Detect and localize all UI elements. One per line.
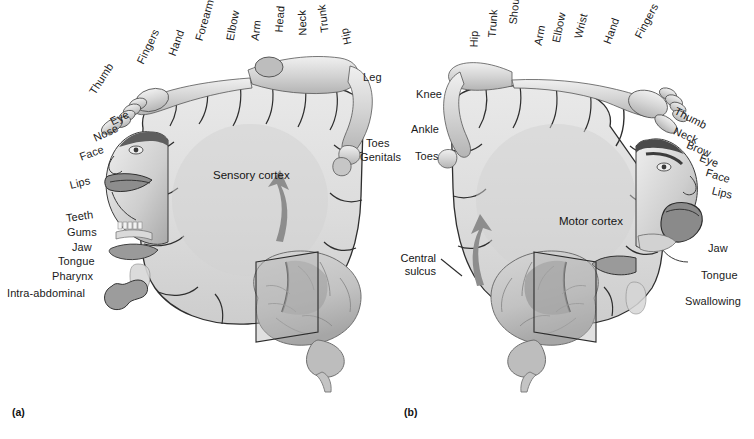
label-jaw-a: Jaw: [72, 242, 92, 253]
sensory-small-brain: [254, 251, 361, 392]
label-pharynx-a: Pharynx: [52, 271, 93, 282]
label-gums-a: Gums: [67, 227, 97, 238]
label-toes-a: Toes: [366, 138, 390, 149]
label-genitals-a: Genitals: [360, 152, 401, 163]
central-sulcus-leader: [441, 259, 462, 276]
label-neck-a: Neck: [297, 10, 309, 36]
central-sulcus-line2: sulcus: [376, 265, 436, 278]
label-tongue-b: Tongue: [701, 270, 738, 281]
central-sulcus-callout: Central sulcus: [376, 252, 436, 277]
label-tongue-a: Tongue: [58, 256, 95, 267]
sensory-cortex-label: Sensory cortex: [213, 169, 290, 181]
central-sulcus-line1: Central: [376, 252, 436, 265]
motor-small-brain: [441, 251, 598, 392]
label-ankle-b: Ankle: [411, 124, 439, 135]
panel-letter-a: (a): [12, 406, 25, 418]
label-trunk-b: Trunk: [487, 9, 500, 38]
label-toes-b: Toes: [415, 151, 439, 162]
motor-cortex-label: Motor cortex: [559, 215, 623, 227]
label-leg-a: Leg: [363, 72, 382, 83]
label-swallowing-b: Swallowing: [685, 296, 741, 307]
panel-b-artwork: [438, 63, 702, 392]
label-head-a: Head: [274, 5, 287, 32]
panel-letter-b: (b): [404, 406, 417, 418]
label-intra-abdominal-a: Intra-abdominal: [7, 288, 85, 299]
label-hip-b: Hip: [469, 31, 481, 48]
panel-a-artwork: [99, 57, 373, 393]
label-knee-b: Knee: [416, 89, 442, 100]
label-jaw-b: Jaw: [708, 243, 728, 254]
homunculus-figure: Sensory cortex Thumb Fingers Hand Forear…: [0, 0, 754, 439]
